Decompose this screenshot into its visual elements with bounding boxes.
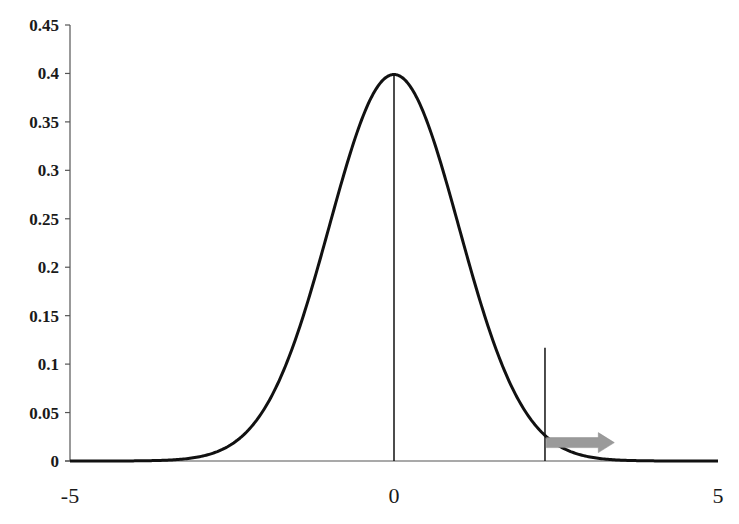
y-tick-label: 0.05 <box>29 404 59 423</box>
tail-arrow-icon <box>546 433 614 453</box>
y-tick-label: 0 <box>51 452 60 471</box>
x-tick-label: 5 <box>713 483 724 508</box>
y-tick-label: 0.15 <box>29 307 59 326</box>
y-tick-label: 0.35 <box>29 113 59 132</box>
y-axis: 00.050.10.150.20.250.30.350.40.45 <box>29 16 70 471</box>
x-tick-label: -5 <box>61 483 79 508</box>
y-tick-label: 0.45 <box>29 16 59 35</box>
y-tick-label: 0.2 <box>38 258 59 277</box>
x-tick-label: 0 <box>389 483 400 508</box>
normal-distribution-chart: 00.050.10.150.20.250.30.350.40.45 -505 <box>0 0 739 524</box>
y-tick-label: 0.4 <box>38 64 60 83</box>
y-tick-label: 0.1 <box>38 355 59 374</box>
y-tick-label: 0.25 <box>29 210 59 229</box>
y-tick-label: 0.3 <box>38 161 59 180</box>
x-axis: -505 <box>61 461 724 508</box>
